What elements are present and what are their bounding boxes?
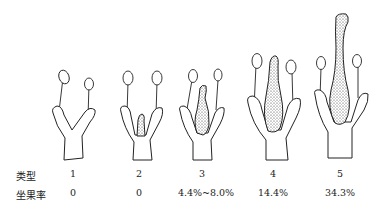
flower-type-5-drawing	[315, 14, 369, 158]
flower-drawings	[0, 0, 386, 211]
type-label-1: 1	[70, 168, 76, 179]
flower-type-diagram: 类型 坐果率 1 2 3 4 5 0 0 4.4%~8.0% 14.4% 34.…	[0, 0, 386, 211]
type-label-5: 5	[337, 168, 343, 179]
flower-type-2-drawing	[121, 71, 163, 160]
flower-type-4-drawing	[248, 54, 301, 161]
fruit-set-rate-1: 0	[70, 187, 76, 198]
fruit-set-rate-4: 14.4%	[258, 187, 288, 198]
fruit-set-rate-3: 4.4%~8.0%	[178, 187, 234, 198]
flower-type-1-drawing	[53, 69, 96, 160]
row-header-fruit-set-rate: 坐果率	[16, 187, 46, 202]
fruit-set-rate-2: 0	[136, 187, 142, 198]
fruit-set-rate-5: 34.3%	[325, 187, 355, 198]
type-label-3: 3	[199, 168, 205, 179]
flower-type-3-drawing	[180, 69, 225, 160]
row-header-type: 类型	[16, 168, 36, 183]
type-label-4: 4	[270, 168, 276, 179]
type-label-2: 2	[136, 168, 142, 179]
